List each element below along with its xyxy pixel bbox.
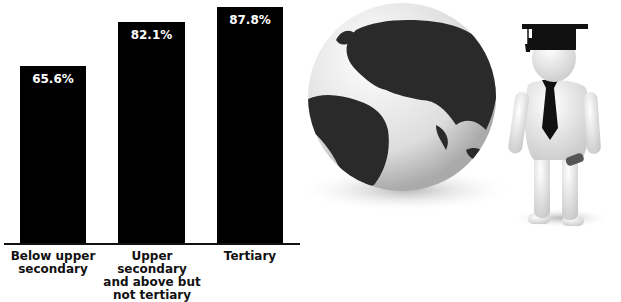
bar-upper-secondary: 82.1% [118,22,185,243]
figure-shadow [511,208,611,228]
bar-below-upper-secondary: 65.6% [20,66,86,243]
globe-graduate-image [296,0,621,250]
value-label: 65.6% [20,72,86,86]
bar-chart: 65.6% 82.1% 87.8% Below upper secondary … [0,0,300,288]
x-axis-line [4,243,300,245]
graduation-cap-icon [522,24,588,52]
category-label-upper-secondary: Upper secondary and above but not tertia… [96,250,208,302]
globe-icon [306,3,498,191]
label-line: Upper secondary [96,250,208,276]
category-label-below-upper-secondary: Below upper secondary [3,250,103,276]
label-line: not tertiary [96,289,208,302]
category-label-tertiary: Tertiary [200,250,300,263]
label-line: Tertiary [200,250,300,263]
value-label: 82.1% [118,28,185,42]
label-line: secondary [3,263,103,276]
value-label: 87.8% [217,13,283,27]
graduate-figure [507,24,601,226]
bar-tertiary: 87.8% [217,7,283,243]
graduate-globe-illustration [296,0,621,250]
